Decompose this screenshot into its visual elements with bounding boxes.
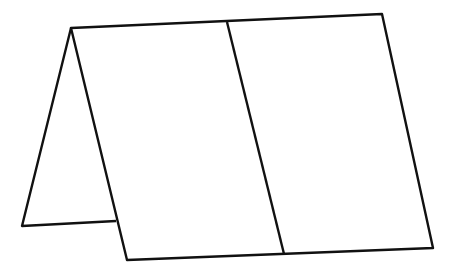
tent-card-drawing [0,0,449,278]
diagram-canvas [0,0,449,278]
crease-line [227,22,284,254]
front-face [71,14,433,260]
side-face [22,28,116,226]
